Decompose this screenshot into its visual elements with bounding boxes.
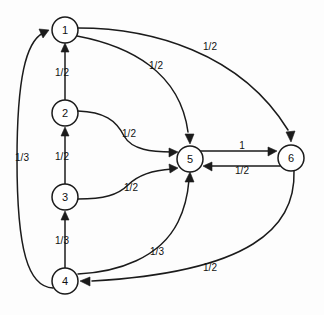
edge-path-6-4 — [92, 171, 294, 281]
node-1[interactable]: 1 — [52, 17, 78, 43]
arrowhead-4-1 — [39, 29, 49, 38]
node-1-label: 1 — [62, 24, 68, 36]
node-6-label: 6 — [288, 152, 294, 164]
edge-label-4-5: 1/3 — [150, 246, 164, 257]
arrowhead-1-5 — [185, 134, 194, 144]
edge-2-to-1: 1/2 — [55, 43, 69, 100]
edge-label-3-5: 1/2 — [124, 182, 138, 193]
edge-label-2-1: 1/2 — [55, 67, 69, 78]
edge-6-to-5: 1/2 — [203, 162, 280, 176]
edge-label-4-1: 1/3 — [15, 152, 29, 163]
node-3[interactable]: 3 — [52, 184, 78, 210]
node-4[interactable]: 4 — [52, 268, 78, 294]
arrowhead-2-1 — [61, 43, 69, 52]
edge-label-4-3: 1/3 — [55, 235, 69, 246]
edge-4-to-1: 1/3 — [15, 29, 53, 288]
edge-5-to-6: 1 — [200, 140, 277, 157]
edge-2-to-5: 1/2 — [78, 111, 178, 157]
arrowhead-4-3 — [61, 211, 69, 220]
arrowhead-6-4 — [80, 277, 90, 286]
arrowhead-5-6 — [268, 147, 277, 156]
edge-label-6-5: 1/2 — [235, 165, 249, 176]
edge-label-1-6: 1/2 — [203, 41, 217, 52]
graph-canvas: 1/2 1/2 1/3 1/3 1/2 — [0, 0, 324, 315]
node-2[interactable]: 2 — [52, 100, 78, 126]
edge-label-1-5: 1/2 — [149, 60, 163, 71]
edge-3-to-5: 1/2 — [78, 164, 178, 199]
node-4-label: 4 — [62, 275, 68, 287]
node-2-label: 2 — [62, 107, 68, 119]
arrowhead-6-5 — [203, 162, 212, 171]
graph-diagram: 1/2 1/2 1/3 1/3 1/2 — [0, 0, 324, 315]
arrowhead-3-2 — [61, 127, 69, 136]
edge-3-to-2: 1/2 — [55, 127, 69, 184]
node-3-label: 3 — [62, 191, 68, 203]
node-6[interactable]: 6 — [278, 145, 304, 171]
arrowhead-4-5 — [185, 172, 194, 182]
edge-label-2-5: 1/2 — [122, 128, 136, 139]
edge-path-1-6 — [78, 28, 288, 130]
node-5[interactable]: 5 — [177, 146, 203, 172]
arrowhead-3-5 — [169, 164, 178, 173]
arrowhead-2-5 — [169, 148, 178, 157]
edge-4-to-3: 1/3 — [55, 211, 69, 268]
edge-path-4-5 — [78, 180, 189, 274]
edge-label-3-2: 1/2 — [55, 151, 69, 162]
arrowhead-1-6 — [286, 131, 295, 142]
node-5-label: 5 — [187, 153, 193, 165]
edge-path-1-5 — [77, 36, 188, 132]
edge-label-5-6: 1 — [239, 140, 245, 151]
edge-label-6-4: 1/2 — [203, 262, 217, 273]
